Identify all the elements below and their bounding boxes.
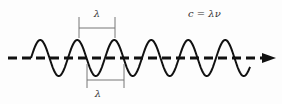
wave-diagram: λ λ c = λν: [0, 0, 282, 104]
wavelength-label-top: λ: [93, 8, 100, 19]
wavelength-bracket-bottom: λ: [87, 64, 124, 99]
wave-diagram-svg: λ λ c = λν: [0, 0, 282, 104]
arrow-right-icon: [262, 53, 276, 63]
formula-label: c = λν: [188, 8, 221, 19]
wavelength-bracket-top: λ: [79, 8, 115, 38]
wavelength-label-bottom: λ: [94, 88, 101, 99]
